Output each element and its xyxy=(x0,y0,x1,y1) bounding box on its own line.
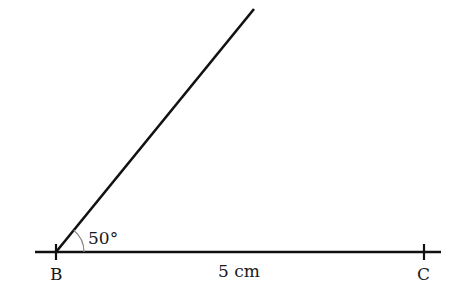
angle-label: 50° xyxy=(88,228,118,248)
angle-arc xyxy=(74,230,84,252)
point-label-c: C xyxy=(417,264,430,284)
angle-ray xyxy=(56,9,254,252)
point-label-b: B xyxy=(50,264,63,284)
angle-construction-diagram: 50° B C 5 cm xyxy=(0,0,468,297)
segment-length-label: 5 cm xyxy=(218,261,260,281)
